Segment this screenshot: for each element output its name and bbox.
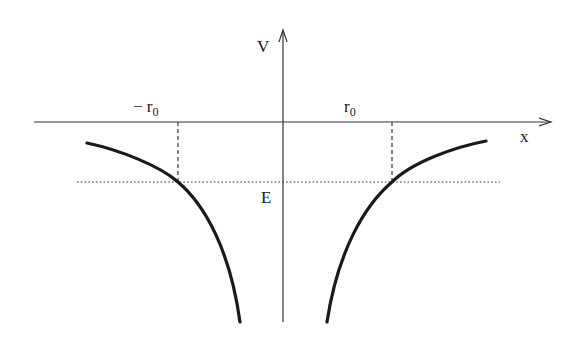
r0-label: r0 [344,97,356,119]
potential-curve-left [87,143,240,322]
potential-curve-right [327,141,486,322]
potential-diagram: V x − r0 r0 E [0,0,580,342]
v-axis-label: V [257,37,270,56]
neg-r0-label: − r0 [133,97,159,119]
energy-label: E [261,188,271,207]
x-axis-label: x [520,127,529,146]
